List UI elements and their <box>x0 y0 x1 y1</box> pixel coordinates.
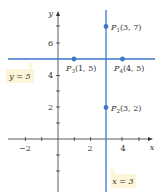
tick-label-x-2: 2 <box>87 144 92 153</box>
label-p2: P2(3, 2) <box>110 104 141 114</box>
label-p4: P4(4, 5) <box>113 64 144 74</box>
coordinate-plane: −2 2 4 x 6 4 2 y y = 5 x = 3 P1(3, 7) P2… <box>0 0 164 196</box>
label-p3: P3(1, 5) <box>65 64 96 74</box>
x-axis-label: x <box>150 143 155 152</box>
y-axis <box>56 11 60 192</box>
point-p1 <box>104 24 109 29</box>
point-p2 <box>104 105 109 110</box>
tick-label-y-4: 4 <box>48 71 53 80</box>
equation-y-equals-5: y = 5 <box>8 72 30 81</box>
point-p3 <box>72 57 77 62</box>
tick-label-y-2: 2 <box>48 103 53 112</box>
y-axis-label: y <box>47 9 53 18</box>
equation-x-equals-3: x = 3 <box>112 177 133 186</box>
label-p1: P1(3, 7) <box>110 23 141 33</box>
callout-y-equals-5: y = 5 <box>6 63 34 83</box>
tick-label-x-4: 4 <box>120 144 125 153</box>
point-p4 <box>120 57 125 62</box>
x-axis <box>8 137 153 141</box>
callout-x-equals-3: x = 3 <box>111 166 136 188</box>
tick-label-x-neg2: −2 <box>19 144 31 153</box>
tick-label-y-6: 6 <box>48 39 53 48</box>
